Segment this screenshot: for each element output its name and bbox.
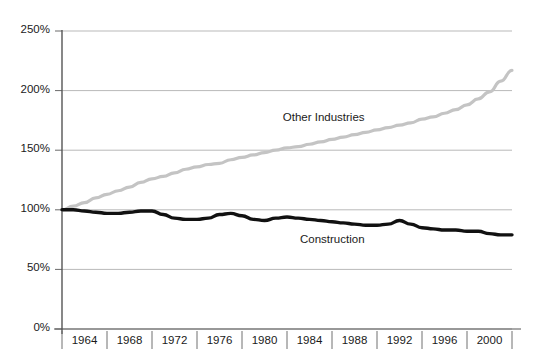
x-axis-tick-label: 1964 [62, 334, 107, 346]
y-axis-tick-label: 50% [4, 261, 50, 273]
chart-plot-area [0, 0, 535, 363]
y-axis-tick-label: 0% [4, 321, 50, 333]
x-axis-tick-label: 1976 [197, 334, 242, 346]
x-axis-tick-label: 2000 [467, 334, 512, 346]
series-label-construction: Construction [300, 233, 365, 245]
series-label-other-industries: Other Industries [283, 111, 365, 123]
line-chart: 250%200%150%100%50%0% 196419681972197619… [0, 0, 535, 363]
x-axis-tick-label: 1984 [287, 334, 332, 346]
x-axis-tick-label: 1972 [152, 334, 197, 346]
y-axis-tick-label: 150% [4, 142, 50, 154]
y-axis-tick-label: 250% [4, 23, 50, 35]
x-axis-tick-label: 1980 [242, 334, 287, 346]
x-axis-tick-label: 1988 [332, 334, 377, 346]
series-line-construction [62, 210, 512, 235]
gridlines-group [55, 31, 512, 329]
series-line-other-industries [62, 70, 512, 209]
x-axis-tick-label: 1996 [422, 334, 467, 346]
x-axis-tick-label: 1968 [107, 334, 152, 346]
x-axis-tick-label: 1992 [377, 334, 422, 346]
y-axis-tick-label: 100% [4, 202, 50, 214]
y-axis-tick-label: 200% [4, 83, 50, 95]
